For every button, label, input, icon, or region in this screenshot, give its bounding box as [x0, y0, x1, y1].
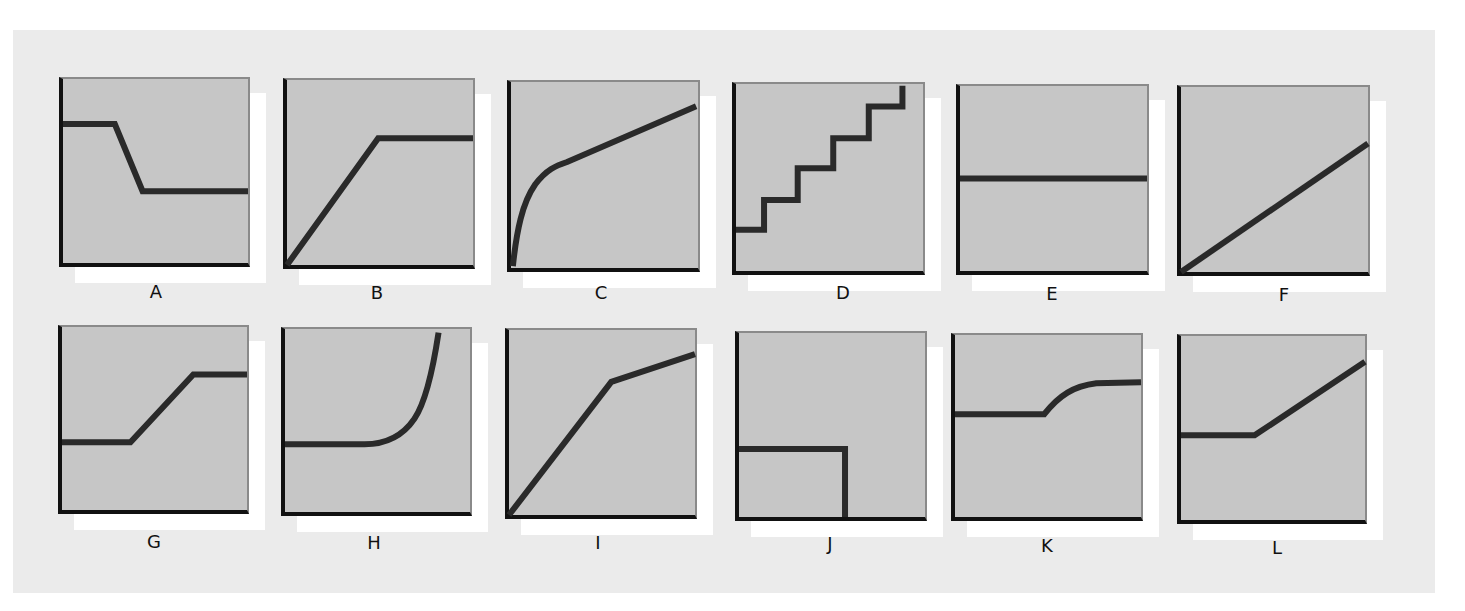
- graph-curve-l: [1181, 336, 1365, 520]
- graph-label-e: E: [1032, 284, 1072, 304]
- graph-curve-f: [1181, 87, 1368, 272]
- graph-curve-c: [511, 82, 698, 268]
- graph-label-k: K: [1027, 536, 1067, 556]
- graph-h: [281, 327, 472, 516]
- graph-e: [956, 84, 1149, 275]
- graph-k: [951, 333, 1143, 521]
- graph-label-j: J: [810, 534, 850, 554]
- graph-d: [732, 82, 925, 275]
- graph-label-f: F: [1264, 285, 1304, 305]
- graph-label-i: I: [578, 533, 618, 553]
- graph-label-g: G: [134, 532, 174, 552]
- graph-i: [505, 328, 697, 519]
- graph-g: [58, 325, 249, 514]
- graph-l: [1177, 334, 1367, 524]
- graph-curve-e: [960, 86, 1147, 271]
- graph-curve-a: [63, 79, 248, 263]
- graph-curve-b: [287, 80, 473, 265]
- graph-c: [507, 80, 700, 272]
- graph-curve-i: [509, 330, 695, 515]
- graph-j: [735, 331, 927, 521]
- graph-curve-k: [955, 335, 1141, 517]
- graph-label-h: H: [354, 533, 394, 553]
- graph-label-d: D: [823, 283, 863, 303]
- graph-label-c: C: [581, 283, 621, 303]
- graph-curve-j: [739, 333, 925, 517]
- graph-b: [283, 78, 475, 269]
- graph-curve-h: [285, 329, 470, 512]
- graph-a: [59, 77, 250, 267]
- graph-curve-g: [62, 327, 247, 510]
- graph-label-l: L: [1257, 538, 1297, 558]
- graph-f: [1177, 85, 1370, 276]
- graph-label-b: B: [357, 283, 397, 303]
- graph-label-a: A: [136, 282, 176, 302]
- graph-curve-d: [736, 84, 923, 271]
